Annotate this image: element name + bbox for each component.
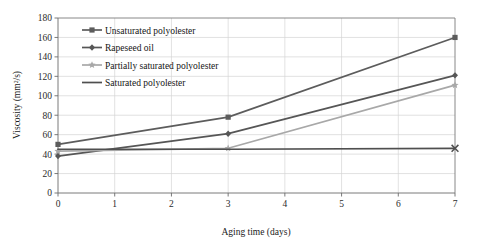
y-tick-label: 80 [43, 111, 53, 121]
diamond-marker-icon [225, 130, 231, 136]
x-tick-label: 3 [226, 199, 231, 209]
y-tick-label: 120 [38, 72, 53, 82]
x-tick-label: 6 [396, 199, 401, 209]
x-tick-label: 2 [169, 199, 174, 209]
diamond-marker-icon [89, 44, 95, 50]
chart-canvas: 020406080100120140160180 01234567 Unsatu… [0, 0, 487, 246]
square-marker-icon [89, 27, 94, 32]
y-axis-tickmarks [55, 18, 59, 193]
x-axis-tick-labels: 01234567 [56, 199, 458, 209]
legend-item-label: Rapeseed oil [105, 43, 154, 53]
legend-item-3[interactable]: Saturated polyolester [82, 78, 186, 88]
y-axis-title: Viscosity (mm²/s) [12, 71, 23, 139]
y-tick-label: 40 [43, 150, 53, 160]
star-marker-icon [88, 61, 95, 68]
legend-item-label: Saturated polyolester [105, 78, 186, 88]
viscosity-aging-line-chart: 020406080100120140160180 01234567 Unsatu… [0, 0, 487, 246]
x-tick-label: 7 [453, 199, 458, 209]
y-tick-label: 60 [43, 130, 53, 140]
legend-item-0[interactable]: Unsaturated polyolester [82, 26, 196, 36]
y-tick-label: 0 [47, 188, 52, 198]
series-line [58, 85, 455, 151]
y-axis-tick-labels: 020406080100120140160180 [38, 13, 53, 198]
diamond-marker-icon [452, 72, 458, 78]
x-tick-label: 0 [56, 199, 61, 209]
x-tick-label: 5 [339, 199, 344, 209]
legend-item-2[interactable]: Partially saturated polyolester [82, 61, 219, 71]
square-marker-icon [55, 142, 60, 147]
x-tick-label: 1 [112, 199, 117, 209]
y-tick-label: 160 [38, 33, 53, 43]
y-tick-label: 180 [38, 13, 53, 23]
legend-item-1[interactable]: Rapeseed oil [82, 43, 154, 53]
y-tick-label: 20 [43, 169, 53, 179]
x-axis-tickmarks [58, 193, 455, 197]
vertical-gridlines [115, 18, 399, 193]
x-axis-title: Aging time (days) [221, 227, 290, 238]
legend-item-label: Partially saturated polyolester [105, 61, 219, 71]
square-marker-icon [452, 35, 457, 40]
legend-item-label: Unsaturated polyolester [105, 26, 196, 36]
y-tick-label: 100 [38, 91, 53, 101]
x-tick-label: 4 [282, 199, 287, 209]
square-marker-icon [226, 115, 231, 120]
series-line [58, 148, 455, 149]
y-tick-label: 140 [38, 52, 53, 62]
